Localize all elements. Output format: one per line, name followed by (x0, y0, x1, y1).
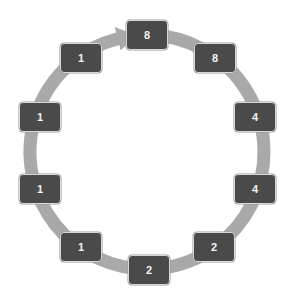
cycle-node: 1 (19, 174, 61, 204)
cycle-node: 8 (126, 20, 168, 50)
cycle-node-label: 1 (37, 183, 43, 195)
cycle-node: 2 (128, 255, 170, 285)
cycle-node: 8 (194, 43, 236, 73)
cycle-node: 1 (19, 102, 61, 132)
cycle-node-label: 2 (211, 241, 217, 253)
cycle-node: 1 (60, 232, 102, 262)
cycle-node-label: 8 (212, 52, 218, 64)
cycle-node-label: 1 (37, 111, 43, 123)
cycle-node-label: 1 (78, 241, 84, 253)
cycle-node: 4 (234, 102, 276, 132)
cycle-node-label: 4 (252, 183, 258, 195)
cycle-node-label: 1 (78, 52, 84, 64)
cycle-node: 2 (193, 232, 235, 262)
cycle-node-label: 4 (252, 111, 258, 123)
cycle-node-label: 8 (144, 29, 150, 41)
cycle-node: 1 (60, 43, 102, 73)
cycle-node: 4 (234, 174, 276, 204)
cycle-node-label: 2 (146, 264, 152, 276)
